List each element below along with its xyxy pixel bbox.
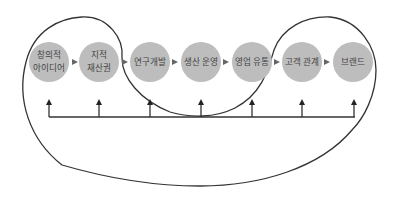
node-label: 지적 xyxy=(91,49,107,60)
flow-arrow-icon xyxy=(324,59,330,65)
up-arrow-icon xyxy=(46,99,52,117)
up-arrow-icon xyxy=(147,99,153,117)
node-label: 창의적 xyxy=(37,49,61,60)
value-chain-diagram: 창의적 아이디어 지적 재산권 연구개발 생산 운영 영업 유통 고객 관계 브… xyxy=(0,0,401,216)
up-arrow-icon xyxy=(198,99,204,117)
up-arrow-icon xyxy=(299,99,305,117)
up-arrow-icon xyxy=(96,99,102,117)
flow-arrow-icon xyxy=(172,59,178,65)
up-arrow-icon xyxy=(249,99,255,117)
flow-arrow-icon xyxy=(223,59,229,65)
flow-arrow-icon xyxy=(122,59,128,65)
flow-arrow-icon xyxy=(72,59,78,65)
node-label: 연구개발 xyxy=(134,57,166,67)
node-label: 브랜드 xyxy=(341,57,365,67)
node-label: 영업 유통 xyxy=(235,57,270,67)
node-label: 아이디어 xyxy=(33,63,65,73)
node-label: 재산권 xyxy=(87,62,111,73)
feedback-arrows xyxy=(46,99,357,117)
node-ip xyxy=(79,42,119,82)
flow-arrow-icon xyxy=(274,59,280,65)
up-arrow-icon xyxy=(351,99,357,117)
node-label: 고객 관계 xyxy=(285,56,320,67)
node-creative-idea xyxy=(29,42,69,82)
node-label: 생산 운영 xyxy=(184,57,219,67)
